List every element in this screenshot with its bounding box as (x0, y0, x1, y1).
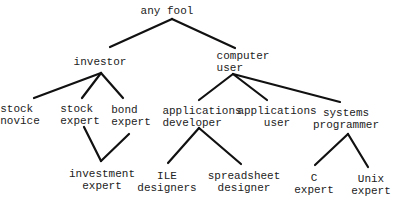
node-label-line1: stock (0, 103, 40, 115)
node-c-expert: C expert (294, 172, 334, 196)
edge-computer-user-systems-programmer (233, 74, 340, 102)
node-label-line2: user (217, 62, 270, 74)
node-label-line2: expert (294, 184, 334, 196)
node-label-line1: bond (111, 104, 151, 116)
tree-edges (0, 0, 394, 204)
node-bond-expert: bond expert (111, 104, 151, 128)
node-unix-expert: Unix expert (351, 173, 391, 197)
edge-applications-developer-ile-designers (168, 128, 199, 163)
node-investor: investor (74, 56, 127, 68)
node-label: any fool (141, 5, 194, 17)
node-label-line1: systems (313, 107, 379, 119)
node-label-line2: programmer (313, 119, 379, 131)
node-label-line1: spreadsheet (208, 170, 281, 182)
node-label-line2: designers (137, 182, 196, 194)
node-applications-user: applications user (237, 105, 316, 129)
node-label-line2: expert (111, 116, 151, 128)
edge-investor-bond-expert (101, 73, 123, 98)
node-ile-designers: ILE designers (137, 170, 196, 194)
node-stock-novice: stock novice (0, 103, 40, 127)
edge-applications-developer-spreadsheet-designer (199, 128, 241, 164)
node-label-line1: applications (237, 105, 316, 117)
node-label-line2: novice (0, 115, 40, 127)
node-label-line2: expert (351, 185, 391, 197)
node-computer-user: computer user (217, 50, 270, 74)
node-investment-expert: investment expert (69, 168, 135, 192)
node-any-fool: any fool (141, 5, 194, 17)
node-label-line1: investment (69, 168, 135, 180)
node-label-line1: applications (162, 105, 241, 117)
edge-systems-programmer-c-expert (315, 134, 348, 165)
node-label-line1: computer (217, 50, 270, 62)
node-label-line2: user (237, 117, 316, 129)
node-label-line2: developer (162, 117, 241, 129)
node-label-line1: stock (60, 103, 100, 115)
edge-systems-programmer-unix-expert (348, 134, 368, 167)
node-label-line1: C (294, 172, 334, 184)
node-stock-expert: stock expert (60, 103, 100, 127)
specialization-tree-diagram: any fool investor computer user stock no… (0, 0, 394, 204)
node-label-line2: expert (60, 115, 100, 127)
node-label-line2: designer (208, 182, 281, 194)
node-systems-programmer: systems programmer (313, 107, 379, 131)
edge-any-fool-investor (110, 19, 172, 47)
node-label: investor (74, 56, 127, 68)
node-spreadsheet-designer: spreadsheet designer (208, 170, 281, 194)
node-label-line1: Unix (351, 173, 391, 185)
node-applications-developer: applications developer (162, 105, 241, 129)
edge-stock-expert-investment-expert (84, 127, 101, 161)
edge-any-fool-computer-user (172, 19, 235, 48)
edge-computer-user-applications-developer (199, 74, 233, 100)
node-label-line1: ILE (137, 170, 196, 182)
edge-bond-expert-investment-expert (101, 134, 129, 161)
node-label-line2: expert (69, 180, 135, 192)
